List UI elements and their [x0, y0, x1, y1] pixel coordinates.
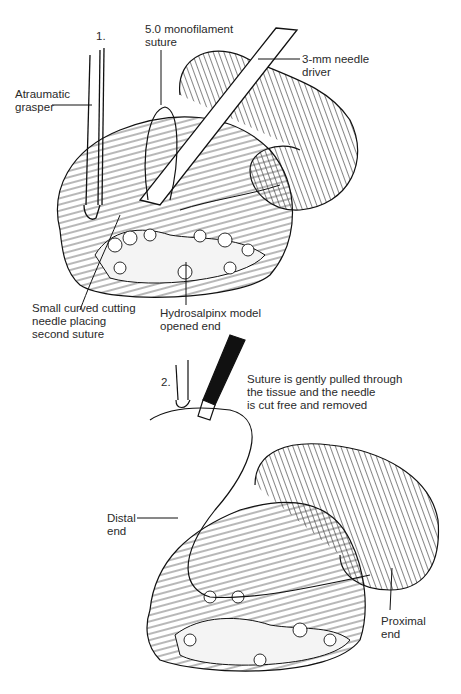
label-hydrosalpinx-model: Hydrosalpinx model opened end — [160, 307, 261, 333]
step-2-label: 2. — [161, 376, 171, 388]
label-distal-end: Distal end — [107, 512, 136, 538]
needle-driver-2-drawing — [198, 335, 245, 420]
grasper-2-drawing — [176, 360, 190, 408]
label-suture-caption: Suture is gently pulled through the tiss… — [247, 373, 402, 412]
label-small-curved-needle: Small curved cutting needle placing seco… — [32, 302, 136, 341]
label-atraumatic-grasper: Atraumatic grasper — [15, 88, 70, 114]
label-needle-driver: 3-mm needle driver — [302, 53, 369, 79]
label-proximal-end: Proximal end — [381, 615, 426, 641]
label-monofilament-suture: 5.0 monofilament suture — [145, 23, 233, 49]
step-1-label: 1. — [96, 30, 106, 42]
